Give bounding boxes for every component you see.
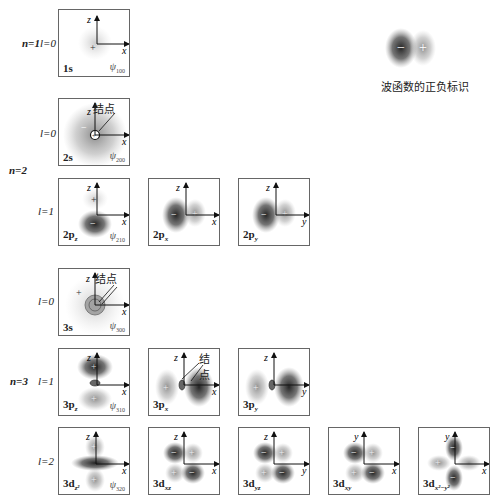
orbital-panel-3s: + z x 结点 3s ψ300 (58, 268, 130, 336)
svg-text:+: + (189, 447, 195, 458)
svg-text:+: + (91, 194, 97, 205)
orbital-name: 2pz (63, 228, 77, 243)
orbital-name: 1s (63, 62, 73, 74)
orbital-name: 3py (243, 398, 258, 413)
label-n1: n=1 (22, 37, 40, 49)
label-n3-l0: l=0 (38, 295, 54, 307)
orbital-panel-3py: + z y 3py (238, 348, 310, 416)
svg-text:z: z (85, 431, 90, 442)
svg-text:x: x (391, 465, 397, 476)
orbital-name: 3pz (63, 398, 77, 413)
orbital-name: 3dz² (63, 477, 79, 492)
label-n2-l0: l=0 (40, 127, 56, 139)
svg-text:−: − (171, 447, 177, 458)
label-n3-l2: l=2 (38, 455, 54, 467)
svg-text:−: − (90, 218, 96, 229)
orbital-name: 3dxy (333, 477, 351, 492)
svg-text:y: y (444, 431, 450, 442)
svg-text:+: + (282, 208, 288, 219)
legend-minus-sign: − (397, 40, 405, 55)
svg-text:x: x (121, 216, 127, 227)
svg-text:−: − (261, 209, 267, 220)
orbital-panel-3pz: + + z x 3pz ψ310 (58, 348, 130, 416)
svg-text:−: − (189, 467, 195, 478)
svg-text:−: − (261, 447, 267, 458)
svg-text:x: x (121, 465, 127, 476)
svg-text:+: + (76, 287, 82, 298)
svg-text:−: − (279, 467, 285, 478)
orbital-panel-3dyz: − + + − z y 3dyz (238, 427, 310, 495)
wavefunction-label: ψ210 (110, 230, 125, 243)
svg-text:z: z (85, 273, 90, 284)
orbital-panel-3px: + z x 结点 3px (148, 348, 220, 416)
svg-text:y: y (301, 216, 307, 227)
axis-label-v: z (86, 14, 91, 25)
svg-text:z: z (86, 106, 91, 117)
svg-text:x: x (481, 465, 487, 476)
svg-text:+: + (435, 457, 441, 468)
svg-text:x: x (211, 216, 217, 227)
node-label: 结点 (199, 350, 219, 382)
node-label: 结点 (95, 270, 117, 286)
svg-text:z: z (265, 182, 270, 193)
svg-text:+: + (171, 467, 177, 478)
svg-text:z: z (175, 182, 180, 193)
svg-text:x: x (121, 136, 127, 147)
orbital-name: 3dyz (243, 477, 260, 492)
wavefunction-label: ψ200 (110, 150, 125, 163)
svg-text:+: + (91, 393, 97, 404)
orbital-panel-2pz: + − z x 2pz ψ210 (58, 178, 130, 246)
orbital-name: 2py (243, 228, 258, 243)
plus-sign: + (90, 42, 96, 53)
wavefunction-label: ψ300 (110, 320, 125, 333)
svg-text:x: x (211, 386, 217, 397)
svg-text:z: z (86, 182, 91, 193)
svg-text:z: z (263, 352, 268, 363)
svg-text:+: + (351, 467, 357, 478)
svg-text:y: y (301, 465, 307, 476)
svg-text:+: + (279, 447, 285, 458)
minus-sign: − (81, 122, 87, 133)
svg-text:+: + (253, 382, 259, 393)
orbital-panel-2py: − + z y 2py (238, 178, 310, 246)
svg-text:z: z (86, 352, 91, 363)
svg-text:z: z (173, 431, 178, 442)
orbital-panel-2px: − + z x 2px (148, 178, 220, 246)
svg-text:+: + (192, 208, 198, 219)
wavefunction-label: ψ310 (110, 400, 125, 413)
label-n3: n=3 (10, 375, 28, 387)
svg-text:−: − (450, 472, 456, 483)
svg-text:x: x (121, 386, 127, 397)
orbital-name: 3px (153, 398, 168, 413)
orbital-name: 2px (153, 228, 168, 243)
svg-text:−: − (369, 467, 375, 478)
legend-plus-sign: + (419, 40, 427, 55)
svg-text:x: x (211, 465, 217, 476)
label-n1-l0: l=0 (40, 37, 56, 49)
orbital-panel-3dxy: − + + − y x 3dxy (328, 427, 400, 495)
svg-text:x: x (121, 306, 127, 317)
svg-text:−: − (351, 447, 357, 458)
svg-text:−: − (171, 209, 177, 220)
svg-text:+: + (261, 467, 267, 478)
wavefunction-label: ψ320 (110, 479, 125, 492)
wavefunction-label: ψ100 (110, 61, 125, 74)
orbital-panel-3dz2: + + z x 3dz² ψ320 (58, 427, 130, 495)
svg-text:+: + (369, 447, 375, 458)
orbital-panel-3dx2y2: − − + y x 3dx²−y² (418, 427, 490, 495)
legend-caption: 波函数的正负标识 (381, 78, 469, 94)
orbital-name: 2s (63, 151, 73, 163)
svg-text:z: z (263, 431, 268, 442)
node-label: 结点 (93, 100, 115, 116)
sign-legend: − + (378, 24, 448, 74)
svg-text:z: z (173, 352, 178, 363)
legend-lobes-graphic: − + (378, 24, 448, 74)
svg-text:+: + (91, 474, 97, 485)
orbital-name: 3dxz (153, 477, 171, 492)
orbital-panel-1s: + z x 1s ψ100 (58, 9, 130, 77)
svg-text:+: + (163, 382, 169, 393)
orbital-name: 3s (63, 321, 73, 333)
orbital-panel-3dxz: − + + − z x 3dxz (148, 427, 220, 495)
label-n2: n=2 (9, 164, 27, 176)
orbital-panel-2s: + − z x 结点 2s ψ200 (58, 98, 130, 166)
